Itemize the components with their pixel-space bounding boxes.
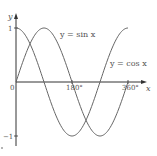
x-tick-label-180: 180° <box>66 84 83 92</box>
y-axis-arrow-icon <box>14 13 18 19</box>
corner-dot <box>1 147 3 149</box>
sin-annotation: y = sin x <box>59 30 96 39</box>
origin-label: 0 <box>10 84 14 92</box>
trig-chart: y x 0 1 −1 180° 360° y = sin x y = cos x <box>0 0 157 156</box>
x-axis-label: x <box>146 84 151 93</box>
y-axis-label: y <box>7 12 13 21</box>
y-tick-label-1: 1 <box>8 25 12 33</box>
y-tick-label-minus-1: −1 <box>3 133 13 141</box>
cos-annotation: y = cos x <box>109 59 147 68</box>
x-tick-label-360: 360° <box>122 84 139 92</box>
